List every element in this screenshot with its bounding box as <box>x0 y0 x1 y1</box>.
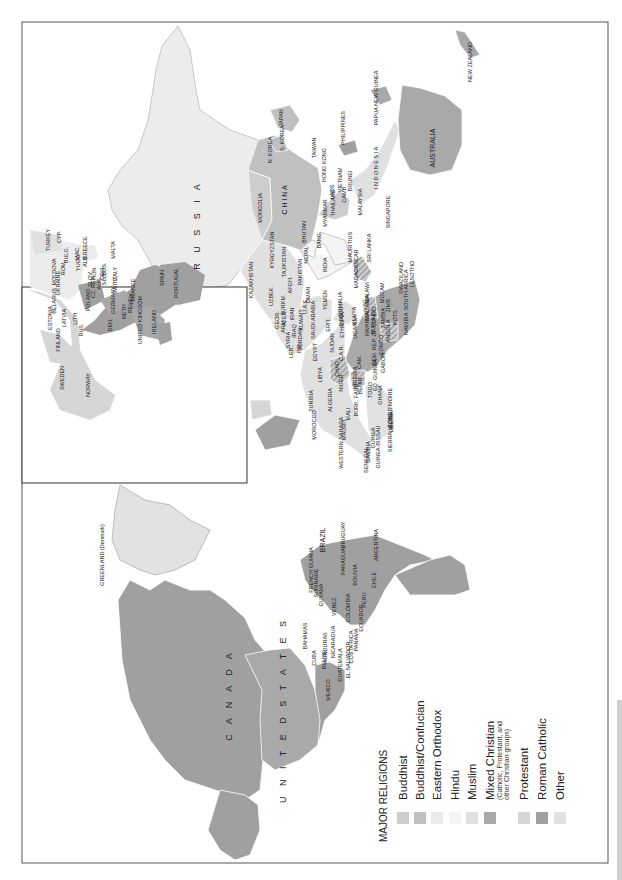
country-label: INDIA <box>322 257 328 272</box>
country-label: SENEGAL <box>363 447 369 473</box>
country-label: PAKISTAN <box>297 259 303 285</box>
country-label: NORWAY <box>85 373 91 397</box>
country-label: MONGOLIA <box>257 193 263 223</box>
country-label: NEW ZEALAND <box>467 42 473 82</box>
country-label: NICARAGUA <box>330 625 336 658</box>
legend-label: Other <box>554 771 566 800</box>
country-label: BHUTAN <box>301 221 307 243</box>
country-label: BRUNEI <box>347 170 353 191</box>
country-label: MALTA <box>110 241 116 259</box>
country-label: TOGO <box>367 381 373 398</box>
country-label: GERMANY <box>110 286 116 314</box>
country-label: S. KOREA <box>279 125 285 151</box>
country-label: SRI LANKA <box>366 233 372 262</box>
country-label: ANGOLA <box>385 319 391 342</box>
country-label: AUSTRALIA <box>429 128 436 167</box>
country-label: ERIT. <box>325 318 331 332</box>
country-label: TAJIKISTAN <box>281 247 287 277</box>
country-label: YUGO. <box>75 253 81 271</box>
country-label: THAILAND <box>330 189 336 216</box>
country-label: AFGH. <box>287 276 293 293</box>
legend-label: Eastern Orthodox <box>431 710 443 800</box>
country-label: UGANDA <box>352 315 358 339</box>
country-label: DEN. <box>107 318 113 332</box>
country-label: U N I T E D S T A T E S <box>278 617 288 803</box>
country-label: RUS. <box>78 323 84 337</box>
legend-label: Muslim <box>466 764 478 800</box>
country-label: C.A.R. <box>338 344 344 361</box>
country-label: C H I N A <box>281 185 288 215</box>
country-label: SUDAN <box>329 333 335 352</box>
country-label: ITALY <box>112 266 118 281</box>
country-label: SPAIN <box>159 270 165 286</box>
country-label: SAUDI ARABIA <box>310 301 316 340</box>
legend-label: Protestant <box>518 747 530 800</box>
country-label: YEMEN <box>322 290 328 310</box>
country-label: MADAGASCAR <box>353 249 359 288</box>
country-label: ALB. <box>82 255 88 267</box>
legend-swatch <box>414 812 426 824</box>
country-label: AZER. <box>281 309 287 326</box>
country-label: LIBYA <box>317 367 323 383</box>
legend-swatch <box>518 812 530 824</box>
country-label: SWEDEN <box>59 366 65 390</box>
legend-swatch <box>536 812 548 824</box>
country-label: DEM. REP. OF CONGO <box>371 306 377 366</box>
country-label: IRELAND <box>151 310 157 334</box>
country-label: BAHAMAS <box>302 622 308 649</box>
country-label: CUBA <box>311 650 317 666</box>
legend-swatch <box>431 812 443 824</box>
country-label: HONG KONG <box>321 148 327 182</box>
country-label: BOTS. <box>392 308 398 325</box>
country-label: ALGERIA <box>327 388 333 412</box>
country-label: OMAN <box>305 287 311 304</box>
legend-swatch <box>484 812 496 824</box>
country-label: MEXICO <box>325 678 331 700</box>
legend-label: Hindu <box>449 770 461 800</box>
country-label: IRAN <box>289 307 295 320</box>
country-label: FRENCH GUIANA <box>308 547 314 593</box>
country-label: BANG. <box>316 231 322 249</box>
country-label: BOLIVIA <box>352 564 358 586</box>
country-label: MAURITIUS <box>347 232 353 263</box>
country-label: TURKEY <box>45 229 51 252</box>
country-label: BULG. <box>63 246 69 263</box>
country-label: I N D O N E S I A <box>373 147 379 190</box>
legend-swatch <box>397 812 409 824</box>
country-label: MYANMAR <box>322 199 328 227</box>
legend-label: Buddhist <box>397 754 409 800</box>
country-label: EGYPT <box>312 342 318 361</box>
world-religions-map: R U S S I AMONGOLIAC H I N AN. KOREAS. K… <box>0 0 622 880</box>
legend-label: Roman Catholic <box>536 718 548 800</box>
country-label: WESTERN SAHARA <box>338 417 344 469</box>
country-label: LESOTHO <box>409 260 415 287</box>
country-label: GUATEMALA <box>337 648 343 682</box>
country-label: MOLDOVA <box>51 258 57 285</box>
country-label: SOMALIA <box>337 291 343 316</box>
country-label: ARGENTINA <box>373 529 379 561</box>
legend-sublabel: other Christian groups) <box>503 729 511 800</box>
country-label: SOUTH AFRICA <box>403 269 409 310</box>
country-label: N. KOREA <box>267 137 273 164</box>
country-label: PERU <box>361 592 367 607</box>
country-label: C A N A D A <box>224 649 234 741</box>
country-label: SYRIA <box>285 331 291 348</box>
country-label: BOS. <box>101 262 107 276</box>
country-label: VENEZ. <box>331 596 337 616</box>
country-label: GHANA <box>377 385 383 405</box>
country-label: BENIN <box>357 378 363 395</box>
country-label: GABON <box>380 353 386 373</box>
country-label: ISR. <box>296 342 302 353</box>
country-label: CHILE <box>371 572 377 589</box>
country-label: MOROCCO <box>311 410 317 440</box>
legend-label: Buddhist/Confucian <box>414 700 426 800</box>
country-label: PHILIPPINES <box>340 111 346 145</box>
country-label: FRANCE <box>130 278 136 301</box>
country-label: NAMIBIA <box>403 312 409 335</box>
country-label: JAPAN <box>278 109 284 126</box>
country-label: COLOMBIA <box>345 593 351 622</box>
country-label: TUNISIA <box>308 390 314 412</box>
legend-title: MAJOR RELIGIONS <box>378 749 389 842</box>
country-label: NEPAL <box>303 246 309 264</box>
country-label: UNITED KINGDOM <box>137 295 143 344</box>
